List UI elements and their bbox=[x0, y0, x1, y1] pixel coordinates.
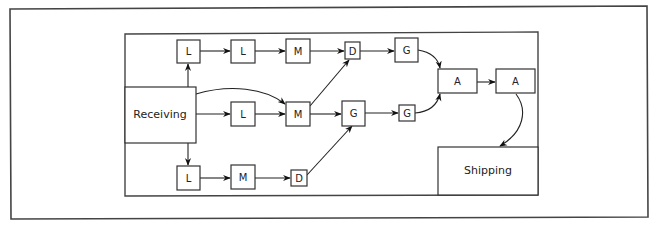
node-shipping: Shipping bbox=[438, 147, 538, 195]
node-a1: A bbox=[438, 69, 477, 93]
node-label: L bbox=[186, 173, 192, 184]
node-label: M bbox=[294, 109, 303, 120]
node-label: M bbox=[294, 46, 303, 57]
node-label: L bbox=[186, 46, 192, 57]
node-m1: M bbox=[286, 39, 310, 63]
node-label: Shipping bbox=[464, 164, 512, 177]
node-receiving: Receiving bbox=[125, 87, 196, 143]
node-label: G bbox=[403, 108, 411, 119]
node-d2: D bbox=[291, 170, 307, 186]
edge-a2-shipping bbox=[500, 94, 523, 146]
node-label: L bbox=[240, 109, 246, 120]
node-d1: D bbox=[345, 42, 360, 59]
nodes: Receiving Shipping L L M D G bbox=[125, 38, 538, 195]
edge-g1-a1 bbox=[418, 50, 440, 68]
node-label: A bbox=[512, 76, 519, 87]
node-label: D bbox=[349, 46, 357, 57]
node-label: M bbox=[239, 172, 248, 183]
node-label: G bbox=[403, 45, 411, 56]
node-g3: G bbox=[399, 105, 415, 121]
node-l2: L bbox=[231, 40, 255, 63]
node-label: L bbox=[240, 46, 246, 57]
node-m3: M bbox=[231, 165, 255, 189]
edge-g3-a1 bbox=[415, 94, 440, 113]
edge-m2-d1 bbox=[310, 60, 349, 106]
node-g2: G bbox=[342, 101, 365, 126]
edge-d2-g2 bbox=[307, 126, 352, 175]
node-l4: L bbox=[177, 166, 200, 190]
outer-frame bbox=[10, 6, 648, 219]
node-label: D bbox=[295, 173, 303, 184]
node-m2: M bbox=[286, 102, 310, 126]
node-g1: G bbox=[395, 38, 418, 62]
node-a2: A bbox=[496, 69, 535, 93]
node-l1: L bbox=[177, 40, 200, 63]
node-l3: L bbox=[231, 102, 255, 126]
node-label: A bbox=[454, 76, 461, 87]
node-label: Receiving bbox=[133, 108, 186, 121]
process-flow-diagram: Receiving Shipping L L M D G bbox=[0, 0, 658, 228]
node-label: G bbox=[350, 108, 358, 119]
